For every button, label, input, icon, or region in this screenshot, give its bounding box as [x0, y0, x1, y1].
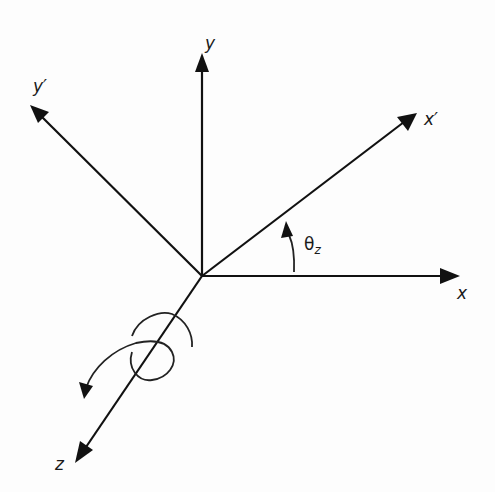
y-prime-axis [30, 105, 202, 276]
y-axis [195, 53, 209, 276]
y-axis-label: y [204, 33, 216, 53]
x-prime-axis-arrowhead [397, 113, 417, 131]
theta-subscript: z [313, 243, 321, 257]
rotation-diagram: x y z x′ y′ θz [0, 0, 495, 492]
theta-symbol: θ [304, 234, 314, 254]
z-axis-arrowhead [75, 441, 93, 463]
x-axis [202, 268, 460, 284]
theta-arrowhead [281, 221, 293, 238]
theta-label: θz [304, 234, 321, 257]
rotation-curl-icon [79, 313, 192, 399]
y-prime-axis-label: y′ [32, 76, 47, 96]
x-axis-label: x [456, 283, 468, 303]
y-axis-arrowhead [195, 53, 209, 72]
rotation-arrowhead [79, 382, 93, 399]
theta-arc [281, 221, 294, 272]
x-prime-axis-label: x′ [423, 109, 438, 129]
z-axis-label: z [54, 454, 65, 474]
z-axis [75, 276, 202, 463]
x-axis-arrowhead [440, 268, 460, 284]
